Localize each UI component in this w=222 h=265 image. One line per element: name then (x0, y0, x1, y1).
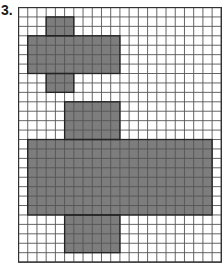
grid-canvas (18, 7, 222, 263)
problem-number-label: 3. (1, 3, 13, 17)
graph-paper-grid (18, 7, 222, 263)
